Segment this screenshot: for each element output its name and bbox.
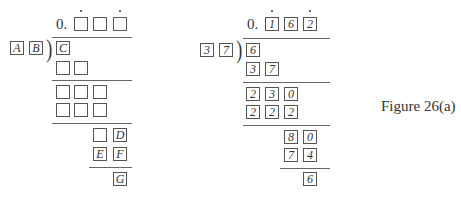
work-box <box>56 103 70 117</box>
subtraction-line <box>243 125 330 126</box>
division-bracket: ) <box>46 36 52 62</box>
division-bar <box>52 37 132 38</box>
subtraction-line <box>89 167 132 168</box>
quotient-box: 6 <box>284 17 298 31</box>
work-box: 7 <box>265 62 279 76</box>
remainder-box: G <box>113 172 127 186</box>
repeat-dot <box>309 10 311 12</box>
work-box <box>93 128 107 142</box>
division-bracket: ) <box>236 37 242 63</box>
work-box <box>74 61 88 75</box>
work-box: 0 <box>284 87 298 101</box>
divisor-box: 3 <box>200 43 214 57</box>
work-box: 3 <box>246 62 260 76</box>
remainder-box: 6 <box>303 172 317 186</box>
figure-caption: Figure 26(a) <box>381 98 456 115</box>
subtraction-line <box>243 82 330 83</box>
quotient-box <box>93 17 107 31</box>
quotient-box: 1 <box>265 17 279 31</box>
work-box: E <box>93 147 107 161</box>
quotient-box <box>113 17 127 31</box>
repeat-dot <box>271 10 273 12</box>
repeat-dot <box>80 10 82 12</box>
work-box: F <box>113 147 127 161</box>
work-box <box>56 61 70 75</box>
work-box <box>56 85 70 99</box>
work-box: 4 <box>303 148 317 162</box>
dividend-box: 6 <box>246 43 260 57</box>
work-box: 8 <box>284 130 298 144</box>
work-box: 2 <box>265 105 279 119</box>
work-box <box>74 103 88 117</box>
divisor-box: 7 <box>219 43 233 57</box>
quotient-prefix: 0. <box>247 16 258 33</box>
work-box: 0 <box>303 130 317 144</box>
quotient-box: 2 <box>303 17 317 31</box>
division-bar <box>243 38 330 39</box>
subtraction-line <box>280 168 330 169</box>
quotient-box <box>74 17 88 31</box>
work-box: 2 <box>246 105 260 119</box>
work-box: 7 <box>284 148 298 162</box>
quotient-prefix: 0. <box>56 16 67 33</box>
work-box <box>93 85 107 99</box>
work-box <box>93 103 107 117</box>
divisor-box: B <box>29 41 43 55</box>
repeat-dot <box>119 10 121 12</box>
work-box: 3 <box>265 87 279 101</box>
subtraction-line <box>52 123 132 124</box>
work-box: D <box>113 128 127 142</box>
divisor-box: A <box>10 41 24 55</box>
work-box: 2 <box>284 105 298 119</box>
work-box <box>74 85 88 99</box>
work-box: 2 <box>246 87 260 101</box>
subtraction-line <box>52 80 132 81</box>
dividend-box: C <box>56 41 70 55</box>
